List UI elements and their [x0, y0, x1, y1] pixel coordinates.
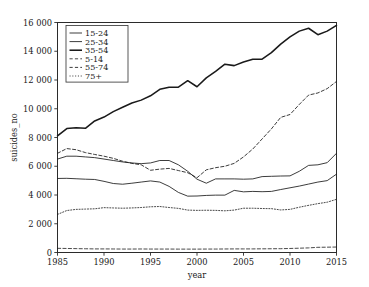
x-tick-label: 2015	[326, 257, 347, 267]
y-tick-label: 14 000	[23, 46, 52, 56]
x-axis-title: year	[187, 270, 207, 280]
y-tick-label: 4 000	[28, 190, 52, 200]
x-tick-label: 2005	[233, 257, 254, 267]
x-tick-label: 2000	[186, 257, 207, 267]
series-line-5-14	[58, 247, 337, 249]
x-tick-label: 1985	[47, 257, 68, 267]
y-tick-label: 16 000	[23, 18, 52, 28]
x-tick-label: 1990	[93, 257, 114, 267]
y-axis-title: suicides_no	[9, 113, 20, 162]
chart-figure: 02 0004 0006 0008 00010 00012 00014 0001…	[0, 0, 369, 287]
x-tick-label: 1995	[140, 257, 161, 267]
y-tick-label: 10 000	[23, 104, 52, 114]
line-chart: 02 0004 0006 0008 00010 00012 00014 0001…	[0, 0, 369, 287]
y-tick-label: 2 000	[28, 219, 52, 229]
x-tick-label: 2010	[279, 257, 300, 267]
y-tick-label: 0	[47, 248, 52, 258]
y-tick-label: 12 000	[23, 75, 52, 85]
y-tick-label: 8 000	[28, 133, 52, 143]
series-line-55-74	[58, 81, 337, 177]
series-line-25-34	[58, 153, 337, 183]
series-line-75+	[58, 199, 337, 214]
legend-label-75+: 75+	[85, 71, 102, 81]
y-tick-label: 6 000	[28, 161, 52, 171]
